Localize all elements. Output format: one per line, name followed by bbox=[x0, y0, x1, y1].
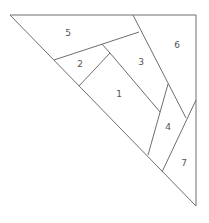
divider-6-left bbox=[133, 15, 186, 118]
divider-2-1 bbox=[79, 53, 110, 86]
dissection-diagram: 1 2 3 4 5 6 7 bbox=[0, 0, 209, 223]
region-label-1: 1 bbox=[116, 89, 122, 99]
divider-2-3 bbox=[102, 44, 110, 53]
divider-3-1 bbox=[110, 53, 160, 112]
divider-4-left bbox=[148, 84, 168, 155]
region-label-3: 3 bbox=[138, 57, 144, 67]
region-label-6: 6 bbox=[174, 40, 180, 50]
region-label-2: 2 bbox=[77, 59, 83, 69]
region-label-7: 7 bbox=[181, 158, 187, 168]
region-label-4: 4 bbox=[165, 122, 171, 132]
region-label-5: 5 bbox=[65, 28, 71, 38]
divider-4-right bbox=[162, 100, 196, 172]
